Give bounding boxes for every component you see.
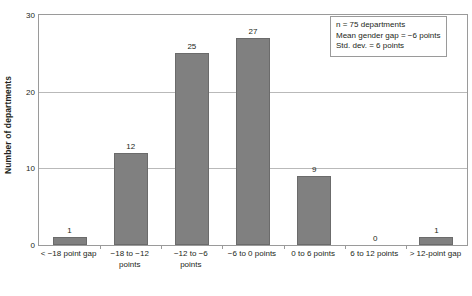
x-axis-tick-label-line: points	[160, 260, 221, 271]
x-axis-tick-label: > 12-point gap	[405, 249, 466, 260]
x-axis-tick-label: −12 to −6points	[160, 249, 221, 270]
bar-value-label: 12	[126, 142, 135, 151]
x-axis-tick-label: −6 to 0 points	[221, 249, 282, 260]
bar-slot: 12	[100, 15, 161, 245]
bar-value-label: 27	[249, 27, 258, 36]
bar-slot: 25	[161, 15, 222, 245]
annotation-line-mean: Mean gender gap = −6 points	[336, 31, 441, 42]
bar-slot: 1	[39, 15, 100, 245]
statistics-annotation-box: n = 75 departments Mean gender gap = −6 …	[330, 16, 447, 57]
y-axis-tick-labels: 0102030	[14, 14, 38, 246]
x-axis-tick-label: −18 to −12points	[99, 249, 160, 270]
y-axis-title-text: Number of departments	[3, 76, 13, 174]
bar[interactable]	[114, 153, 148, 245]
x-axis-tick-labels: < −18 point gap−18 to −12points−12 to −6…	[38, 249, 468, 289]
annotation-line-stddev: Std. dev. = 6 points	[336, 41, 441, 52]
bar-value-label: 25	[187, 42, 196, 51]
y-axis-tick-label: 10	[26, 164, 35, 173]
x-axis-tick-label-line: points	[99, 260, 160, 271]
x-axis-tick-label-line: −6 to 0 points	[221, 249, 282, 260]
x-axis-tick-label-line: −12 to −6	[160, 249, 221, 260]
x-axis-tick-label-line: −18 to −12	[99, 249, 160, 260]
x-axis-tick-label-line: > 12-point gap	[405, 249, 466, 260]
bar-value-label: 0	[373, 234, 377, 243]
bar[interactable]	[236, 38, 270, 245]
bar[interactable]	[419, 237, 453, 245]
annotation-line-n: n = 75 departments	[336, 20, 441, 31]
y-axis-tick-label: 0	[31, 241, 35, 250]
x-axis-tick-label-line: < −18 point gap	[38, 249, 99, 260]
bar[interactable]	[53, 237, 87, 245]
bar-chart-figure: Number of departments 0102030 1122527901…	[0, 0, 472, 296]
bar-value-label: 9	[312, 165, 316, 174]
bar-value-label: 1	[67, 226, 71, 235]
bar[interactable]	[297, 176, 331, 245]
bar[interactable]	[175, 53, 209, 245]
y-axis-tick-label: 20	[26, 87, 35, 96]
bar-value-label: 1	[434, 226, 438, 235]
y-axis-tick-label: 30	[26, 11, 35, 20]
x-axis-tick-label: 6 to 12 points	[344, 249, 405, 260]
bar-slot: 27	[222, 15, 283, 245]
x-axis-tick-label: 0 to 6 points	[283, 249, 344, 260]
x-axis-tick-label-line: 0 to 6 points	[283, 249, 344, 260]
x-axis-tick-label-line: 6 to 12 points	[344, 249, 405, 260]
x-axis-tick-label: < −18 point gap	[38, 249, 99, 260]
